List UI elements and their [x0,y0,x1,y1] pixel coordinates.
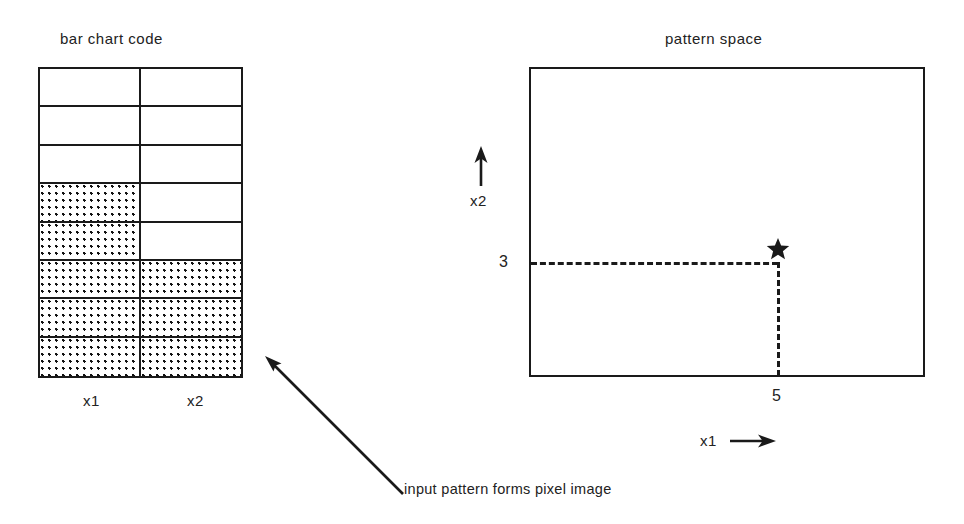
grid-cell-filled [40,338,141,376]
bar-chart-code-title: bar chart code [60,30,163,47]
figure-caption: input pattern forms pixel image [404,481,612,497]
grid-cell-filled [141,338,242,376]
grid-cell [40,107,141,145]
bar-chart-column-label-x2: x2 [187,392,204,409]
x-axis-arrow-icon [730,435,776,448]
grid-cell-filled [40,223,141,261]
x-tick-label-5: 5 [772,387,781,405]
grid-cell [40,146,141,184]
grid-cell-filled [141,261,242,299]
grid-cell-filled [40,261,141,299]
x-axis-label-x1: x1 [700,432,717,449]
grid-cell [40,69,141,107]
dashed-guide-horizontal [531,262,778,265]
pattern-space-title: pattern space [665,30,762,47]
caption-pointer-arrow-icon [265,356,403,494]
pattern-space-plot-area [529,67,925,377]
y-axis-label-x2: x2 [470,192,487,209]
grid-cell [141,223,242,261]
grid-cell [141,69,242,107]
grid-cell [141,146,242,184]
grid-cell-filled [40,184,141,222]
grid-cell [141,184,242,222]
bar-chart-code-grid [38,67,243,378]
bar-chart-column-label-x1: x1 [83,392,100,409]
y-axis-arrow-icon [475,146,488,186]
grid-cell [141,107,242,145]
grid-cell-filled [141,299,242,337]
grid-cell-filled [40,299,141,337]
y-tick-label-3: 3 [499,253,508,271]
dashed-guide-vertical [777,262,780,376]
